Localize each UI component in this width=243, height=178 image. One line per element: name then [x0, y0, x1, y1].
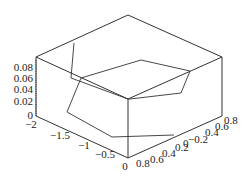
z-tick-label: 0.04	[14, 83, 34, 95]
x-tick-label: −2	[25, 118, 37, 130]
x-tick-label: −1.5	[50, 129, 70, 141]
x-tick-label: −1	[78, 139, 90, 151]
box-top-back	[36, 15, 222, 57]
y-tick-label: 0.8	[224, 114, 238, 126]
plot-3d: 0.080.060.040.020−2−1.5−1−0.500.80.60.40…	[0, 0, 243, 178]
tick-labels: 0.080.060.040.020−2−1.5−1−0.500.80.60.40…	[14, 61, 239, 172]
z-tick-label: 0.02	[14, 95, 33, 107]
x-tick-label: −0.5	[95, 148, 115, 160]
x-tick-label: 0	[122, 160, 128, 172]
y-tick-label: 0.8	[136, 157, 150, 169]
